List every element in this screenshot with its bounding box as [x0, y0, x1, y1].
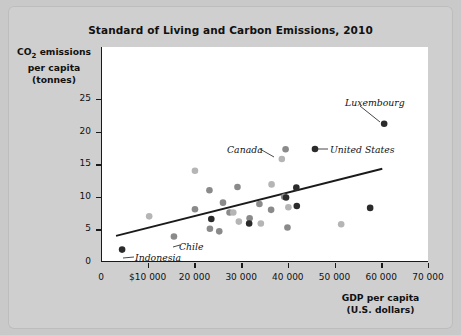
x-tick-mark	[381, 263, 382, 268]
data-point-luxembourg	[381, 120, 388, 127]
data-point-canada	[279, 156, 286, 163]
data-point	[192, 167, 199, 174]
y-tick-label: 20	[65, 126, 91, 136]
annotation-label-indonesia: Indonesia	[135, 252, 181, 263]
data-point-united-states	[293, 203, 300, 210]
data-point	[285, 204, 292, 211]
data-point	[268, 207, 275, 214]
y-tick-label: 10	[65, 191, 91, 201]
data-point-chile	[171, 233, 178, 240]
data-point	[258, 220, 265, 227]
data-point	[246, 220, 253, 227]
data-point	[293, 184, 300, 191]
data-point	[230, 209, 237, 216]
data-point	[216, 228, 223, 235]
data-point	[208, 216, 215, 223]
data-point	[206, 187, 213, 194]
data-point	[283, 194, 290, 201]
y-tick-label: 5	[65, 223, 91, 233]
annotation-label-chile: Chile	[179, 241, 204, 252]
annotation-label-united-states: United States	[330, 144, 395, 155]
data-point	[220, 199, 227, 206]
x-axis-title-line1: GDP per capita	[342, 292, 420, 303]
figure-panel: Standard of Living and Carbon Emissions,…	[8, 6, 453, 329]
data-point	[284, 224, 291, 231]
data-point	[282, 146, 289, 153]
y-tick-label: 0	[65, 256, 91, 266]
y-axis-title: CO2 emissions per capita (tonnes)	[10, 46, 98, 85]
data-point	[192, 206, 199, 213]
x-tick-label: 70 000	[400, 272, 456, 282]
data-point	[236, 218, 243, 225]
page-title: Standard of Living and Carbon Emissions,…	[8, 24, 453, 36]
data-point	[268, 181, 275, 188]
x-axis-title: GDP per capita (U.S. dollars)	[308, 292, 453, 315]
data-point	[338, 221, 345, 228]
y-axis-title-line1: CO2 emissions	[17, 46, 91, 57]
data-point	[234, 184, 241, 191]
data-point-indonesia	[119, 246, 126, 253]
data-point	[207, 225, 214, 232]
x-tick-mark	[335, 263, 336, 268]
x-tick-mark	[241, 263, 242, 268]
annotation-label-luxembourg: Luxembourg	[345, 97, 405, 108]
data-point	[256, 201, 263, 208]
x-tick-mark	[288, 263, 289, 268]
y-tick-label: 15	[65, 158, 91, 168]
x-tick-mark	[428, 263, 429, 268]
data-point	[146, 213, 153, 220]
x-tick-mark	[148, 263, 149, 268]
x-axis-title-line2: (U.S. dollars)	[346, 304, 414, 315]
data-point	[367, 205, 374, 212]
y-axis-title-line3: (tonnes)	[32, 74, 76, 85]
y-axis-title-line2: per capita	[28, 62, 81, 73]
annotation-label-canada: Canada	[227, 144, 263, 155]
y-tick-label: 25	[65, 93, 91, 103]
x-tick-mark	[194, 263, 195, 268]
